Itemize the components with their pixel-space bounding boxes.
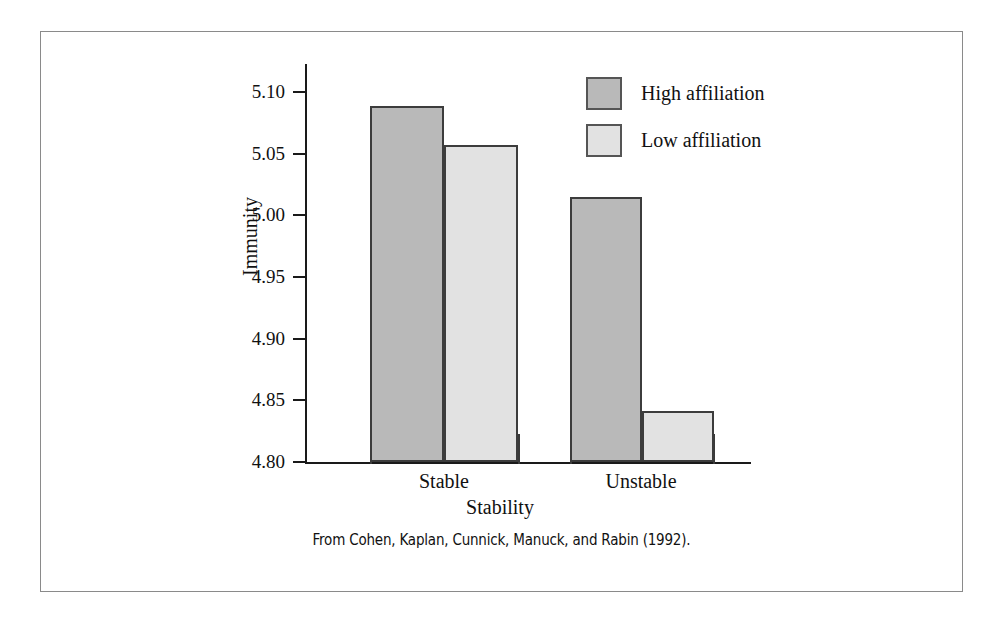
x-category-label-unstable: Unstable [531,470,751,493]
x-category-label-stable: Stable [334,470,554,493]
y-tick-mark [293,214,306,216]
y-tick-label: 4.85 [215,390,285,409]
bar-stable-high-affiliation [370,106,444,462]
x-tick-mark [518,434,520,464]
y-tick-label: 5.05 [215,144,285,163]
bar-chart: 5.105.055.004.954.904.854.80 StableUnsta… [0,0,999,617]
y-tick-mark [293,338,306,340]
y-tick-label: 4.90 [215,329,285,348]
chart-legend: High affiliation Low affiliation [586,70,765,164]
legend-swatch-high-affiliation [586,77,622,110]
figure-caption: From Cohen, Kaplan, Cunnick, Manuck, and… [40,531,963,549]
y-tick-mark [293,399,306,401]
legend-item-low-affiliation: Low affiliation [586,117,765,164]
y-axis-line [305,64,307,464]
x-axis-title: Stability [390,496,610,519]
y-tick-mark [293,276,306,278]
legend-swatch-low-affiliation [586,124,622,157]
bar-unstable-low-affiliation [642,411,714,462]
y-tick-label: 4.80 [215,452,285,471]
y-axis-title: Immunity [239,167,262,307]
legend-label-low-affiliation: Low affiliation [641,129,761,152]
y-tick-mark [293,91,306,93]
legend-label-high-affiliation: High affiliation [641,82,765,105]
y-tick-mark [293,461,306,463]
y-tick-label: 5.10 [215,82,285,101]
bar-unstable-high-affiliation [570,197,642,462]
legend-item-high-affiliation: High affiliation [586,70,765,117]
bar-stable-low-affiliation [444,145,518,462]
y-tick-mark [293,153,306,155]
